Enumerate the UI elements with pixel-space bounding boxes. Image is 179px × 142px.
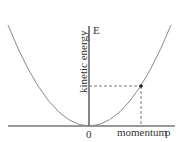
x-axis-label: momentum bbox=[117, 127, 167, 138]
energy-momentum-diagram bbox=[0, 0, 179, 142]
y-axis-symbol: E bbox=[93, 25, 100, 36]
origin-label: 0 bbox=[86, 129, 92, 140]
y-axis-label: kinetic energy bbox=[77, 31, 89, 93]
x-axis-symbol: p bbox=[165, 127, 171, 138]
highlighted-point bbox=[139, 84, 143, 88]
